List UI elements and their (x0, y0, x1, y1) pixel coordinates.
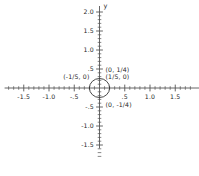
y-tick-label-4: -.5 (85, 104, 94, 110)
annotation-left-vertex: (-1/5, 0) (63, 74, 89, 80)
y-axis-label: y (104, 3, 108, 10)
annotation-right-vertex: (1/5, 0) (106, 74, 130, 80)
x-tick-label-2: -.5 (70, 94, 79, 100)
y-tick-label-0: 2.0 (84, 9, 94, 15)
plot-canvas (0, 0, 199, 176)
y-tick-label-3: .5 (88, 66, 94, 72)
annotation-top-vertex: (0, 1/4) (106, 67, 130, 73)
x-tick-label-3: .5 (122, 94, 128, 100)
y-tick-label-1: 1.5 (84, 28, 94, 34)
x-tick-label-1: -1.0 (43, 94, 56, 100)
x-tick-label-5: 1.5 (170, 94, 180, 100)
y-tick-label-2: 1.0 (84, 47, 94, 53)
y-tick-label-5: -1.0 (81, 123, 94, 129)
axes-group (5, 6, 199, 148)
coordinate-plane-figure: -1.5-1.0-.5.51.01.52.01.51.0.5-.5-1.0-1.… (0, 0, 199, 176)
x-tick-label-4: 1.0 (145, 94, 155, 100)
annotation-bottom-vertex: (0, -1/4) (106, 102, 132, 108)
y-tick-label-6: -1.5 (81, 142, 94, 148)
x-tick-label-0: -1.5 (17, 94, 30, 100)
